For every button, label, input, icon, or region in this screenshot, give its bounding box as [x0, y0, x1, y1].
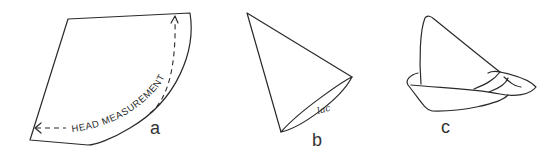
seam-note: lac	[316, 103, 331, 116]
panel-b-label: b	[312, 130, 322, 150]
pattern-outline	[30, 13, 191, 145]
hat-crown	[420, 16, 500, 84]
hat-brim-top	[411, 72, 536, 96]
panel-a-pattern: HEAD MEASUREMENT a	[30, 13, 191, 145]
arrow-head-top	[171, 16, 178, 23]
panel-c-label: c	[441, 117, 450, 137]
panel-a-label: a	[150, 118, 161, 138]
head-measurement-arrow	[36, 20, 175, 128]
panel-c-hat: c	[407, 16, 536, 137]
cone-rim	[281, 77, 352, 132]
panel-b-cone: lac b	[247, 13, 352, 150]
